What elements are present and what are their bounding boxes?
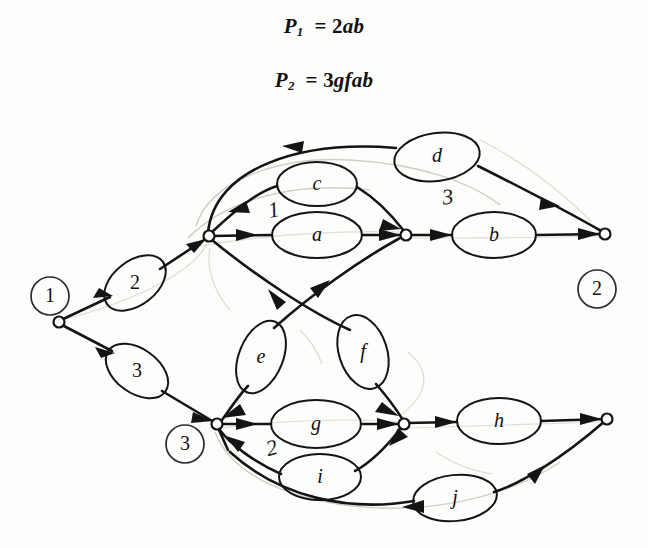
branch-ellipses: 2 3 c a d b <box>94 127 541 525</box>
branch-d[interactable]: d <box>391 127 483 187</box>
annotation-1: 1 <box>266 196 282 223</box>
branch-i-label: i <box>317 465 323 487</box>
branch-c[interactable]: c <box>277 162 357 206</box>
branch-d-label: d <box>432 144 443 166</box>
figure-canvas: P1 = 2ab P2 = 3gfab <box>0 0 648 548</box>
branch-f[interactable]: f <box>328 308 397 395</box>
node-label-2-text: 2 <box>592 277 602 299</box>
graph-edges <box>61 147 605 505</box>
node-label-3: 3 <box>166 425 204 463</box>
branch-e[interactable]: e <box>226 314 295 401</box>
annotation-3: 3 <box>439 183 454 209</box>
branch-b[interactable]: b <box>452 212 536 258</box>
branch-2-label: 2 <box>130 271 140 293</box>
branch-e-label: e <box>257 345 266 367</box>
annotation-2: 2 <box>263 434 280 461</box>
branch-h-label: h <box>494 409 504 431</box>
edge-arrowheads <box>93 141 602 513</box>
graph-nodes <box>54 229 613 430</box>
branch-j[interactable]: j <box>411 471 499 526</box>
branch-b-label: b <box>489 223 499 245</box>
branch-f-label: f <box>360 340 368 363</box>
hub-node-lower-right[interactable] <box>399 419 410 430</box>
hub-node-lower-left[interactable] <box>212 419 223 430</box>
sink-node-lower-right[interactable] <box>602 414 613 425</box>
node-label-1: 1 <box>31 277 69 315</box>
source-node[interactable] <box>54 317 65 328</box>
node-label-1-text: 1 <box>45 284 55 306</box>
branch-h[interactable]: h <box>457 398 541 444</box>
branch-g-label: g <box>311 412 321 435</box>
branch-a-label: a <box>312 223 322 245</box>
branch-i[interactable]: i <box>279 454 361 500</box>
branch-g[interactable]: g <box>271 400 361 448</box>
branch-2[interactable]: 2 <box>94 244 176 322</box>
node-label-2: 2 <box>578 270 616 308</box>
flow-graph: 1 2 3 2 3 c <box>0 0 648 548</box>
hub-node-upper-left[interactable] <box>204 231 215 242</box>
branch-c-label: c <box>313 172 322 194</box>
branch-3[interactable]: 3 <box>96 333 178 410</box>
pencil-ghost-marks <box>62 140 600 508</box>
circled-node-labels: 1 2 3 <box>31 270 616 463</box>
branch-3-label: 3 <box>132 359 142 381</box>
branch-j-label: j <box>449 486 458 509</box>
node-label-3-text: 3 <box>180 432 190 454</box>
sink-node-right[interactable] <box>600 229 611 240</box>
hub-node-upper-right[interactable] <box>401 230 412 241</box>
